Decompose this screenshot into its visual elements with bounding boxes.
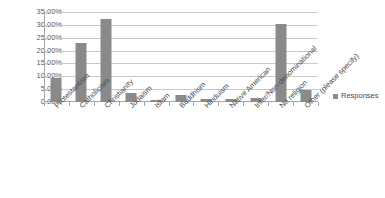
legend: Responses — [333, 92, 379, 100]
x-axis-tick — [318, 102, 319, 106]
x-axis-tick — [193, 102, 194, 106]
x-axis-tick — [119, 102, 120, 106]
x-axis-tick — [218, 102, 219, 106]
x-axis-tick — [69, 102, 70, 106]
x-axis-tick — [169, 102, 170, 106]
x-axis-tick — [94, 102, 95, 106]
x-axis-tick — [144, 102, 145, 106]
x-axis-tick — [293, 102, 294, 106]
chart-title — [44, 0, 374, 4]
bar-slot — [169, 12, 194, 102]
bar-chart: 35.00%30.00%25.00%20.00%15.00%10.00%5.00… — [0, 0, 385, 198]
x-axis-tick — [243, 102, 244, 106]
legend-swatch-responses — [333, 94, 338, 99]
bar-slot — [44, 12, 69, 102]
x-axis-tick — [268, 102, 269, 106]
x-axis-tick — [44, 102, 45, 106]
legend-label-responses: Responses — [341, 92, 379, 100]
